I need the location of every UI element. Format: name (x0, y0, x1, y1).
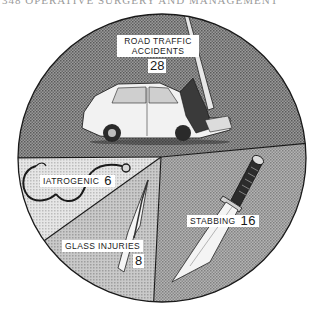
value-iatrogenic: 6 (104, 173, 112, 188)
label-road-traffic-line1: ROAD TRAFFIC (120, 36, 196, 46)
value-glass-injuries: 8 (133, 254, 144, 268)
value-road-traffic: 28 (148, 59, 166, 73)
label-road-traffic-line2: ACCIDENTS (120, 46, 196, 56)
label-stabbing-text: STABBING (190, 216, 236, 226)
label-road-traffic: ROAD TRAFFIC ACCIDENTS (117, 35, 199, 57)
label-iatrogenic: IATROGENIC6 (40, 175, 115, 187)
value-stabbing: 16 (241, 213, 256, 228)
label-stabbing: STABBING16 (187, 215, 259, 227)
label-glass-injuries: GLASS INJURIES (62, 240, 143, 252)
slice-stabbing (153, 142, 321, 315)
label-iatrogenic-text: IATROGENIC (43, 176, 99, 186)
label-glass-injuries-text: GLASS INJURIES (65, 241, 140, 251)
